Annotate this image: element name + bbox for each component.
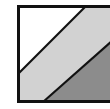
icon-canvas	[0, 0, 110, 109]
diagonal-stripes-swatch-icon	[0, 0, 110, 109]
